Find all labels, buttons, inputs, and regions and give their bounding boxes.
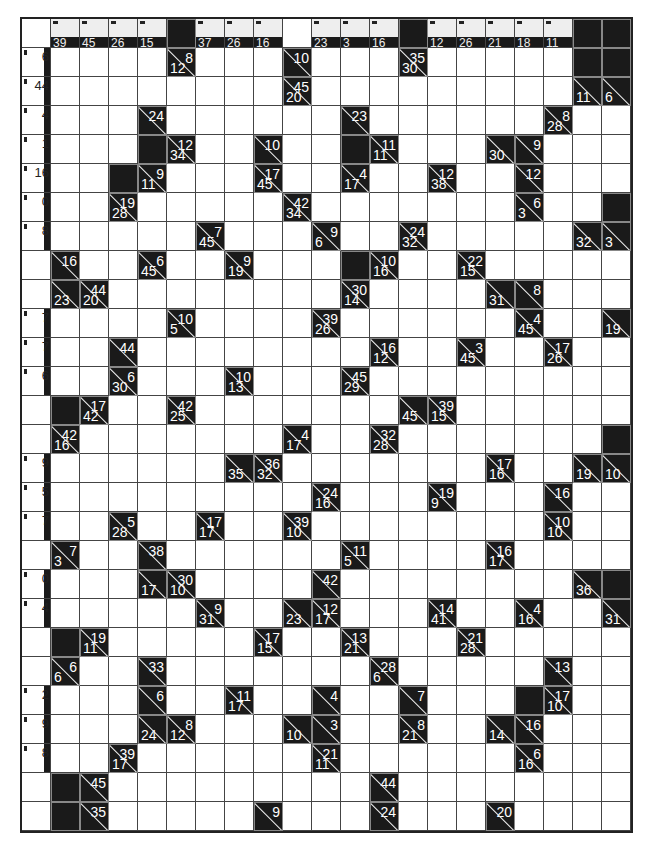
entry-cell[interactable]: [109, 454, 138, 483]
entry-cell[interactable]: [602, 802, 631, 831]
entry-cell[interactable]: [51, 686, 80, 715]
entry-cell[interactable]: [399, 251, 428, 280]
entry-cell[interactable]: [602, 367, 631, 396]
entry-cell[interactable]: [573, 135, 602, 164]
entry-cell[interactable]: [341, 599, 370, 628]
entry-cell[interactable]: [196, 483, 225, 512]
entry-cell[interactable]: [457, 541, 486, 570]
entry-cell[interactable]: [515, 77, 544, 106]
entry-cell[interactable]: [515, 222, 544, 251]
entry-cell[interactable]: [428, 512, 457, 541]
entry-cell[interactable]: [544, 773, 573, 802]
entry-cell[interactable]: [602, 338, 631, 367]
entry-cell[interactable]: [312, 773, 341, 802]
entry-cell[interactable]: [602, 135, 631, 164]
entry-cell[interactable]: [254, 338, 283, 367]
entry-cell[interactable]: [167, 280, 196, 309]
entry-cell[interactable]: [80, 251, 109, 280]
entry-cell[interactable]: [399, 454, 428, 483]
entry-cell[interactable]: [399, 599, 428, 628]
entry-cell[interactable]: [428, 280, 457, 309]
entry-cell[interactable]: [486, 512, 515, 541]
entry-cell[interactable]: [602, 512, 631, 541]
entry-cell[interactable]: [80, 541, 109, 570]
entry-cell[interactable]: [225, 570, 254, 599]
entry-cell[interactable]: [428, 802, 457, 831]
entry-cell[interactable]: [167, 454, 196, 483]
entry-cell[interactable]: [225, 628, 254, 657]
entry-cell[interactable]: [486, 106, 515, 135]
entry-cell[interactable]: [457, 454, 486, 483]
entry-cell[interactable]: [370, 396, 399, 425]
entry-cell[interactable]: [283, 309, 312, 338]
entry-cell[interactable]: [196, 425, 225, 454]
entry-cell[interactable]: [167, 483, 196, 512]
entry-cell[interactable]: [80, 164, 109, 193]
entry-cell[interactable]: [457, 106, 486, 135]
entry-cell[interactable]: [399, 338, 428, 367]
entry-cell[interactable]: [602, 280, 631, 309]
entry-cell[interactable]: [602, 106, 631, 135]
entry-cell[interactable]: [225, 193, 254, 222]
entry-cell[interactable]: [573, 483, 602, 512]
entry-cell[interactable]: [486, 396, 515, 425]
entry-cell[interactable]: [138, 309, 167, 338]
entry-cell[interactable]: [428, 686, 457, 715]
entry-cell[interactable]: [167, 599, 196, 628]
entry-cell[interactable]: [544, 77, 573, 106]
entry-cell[interactable]: [196, 802, 225, 831]
entry-cell[interactable]: [457, 193, 486, 222]
entry-cell[interactable]: [196, 367, 225, 396]
entry-cell[interactable]: [428, 367, 457, 396]
entry-cell[interactable]: [399, 744, 428, 773]
entry-cell[interactable]: [486, 164, 515, 193]
entry-cell[interactable]: [167, 164, 196, 193]
entry-cell[interactable]: [341, 338, 370, 367]
entry-cell[interactable]: [515, 367, 544, 396]
entry-cell[interactable]: [196, 164, 225, 193]
entry-cell[interactable]: [544, 251, 573, 280]
entry-cell[interactable]: [428, 77, 457, 106]
entry-cell[interactable]: [457, 773, 486, 802]
entry-cell[interactable]: [138, 280, 167, 309]
entry-cell[interactable]: [283, 773, 312, 802]
entry-cell[interactable]: [254, 657, 283, 686]
entry-cell[interactable]: [109, 541, 138, 570]
entry-cell[interactable]: [138, 193, 167, 222]
entry-cell[interactable]: [196, 541, 225, 570]
entry-cell[interactable]: [428, 657, 457, 686]
entry-cell[interactable]: [51, 164, 80, 193]
entry-cell[interactable]: [51, 715, 80, 744]
entry-cell[interactable]: [312, 193, 341, 222]
entry-cell[interactable]: [341, 773, 370, 802]
entry-cell[interactable]: [254, 396, 283, 425]
entry-cell[interactable]: [428, 251, 457, 280]
entry-cell[interactable]: [167, 106, 196, 135]
entry-cell[interactable]: [225, 309, 254, 338]
entry-cell[interactable]: [283, 483, 312, 512]
entry-cell[interactable]: [167, 512, 196, 541]
entry-cell[interactable]: [51, 570, 80, 599]
entry-cell[interactable]: [51, 309, 80, 338]
entry-cell[interactable]: [573, 628, 602, 657]
entry-cell[interactable]: [254, 48, 283, 77]
entry-cell[interactable]: [254, 222, 283, 251]
entry-cell[interactable]: [399, 570, 428, 599]
entry-cell[interactable]: [573, 338, 602, 367]
entry-cell[interactable]: [457, 483, 486, 512]
entry-cell[interactable]: [457, 599, 486, 628]
entry-cell[interactable]: [254, 570, 283, 599]
entry-cell[interactable]: [109, 570, 138, 599]
entry-cell[interactable]: [196, 396, 225, 425]
entry-cell[interactable]: [283, 570, 312, 599]
entry-cell[interactable]: [573, 251, 602, 280]
entry-cell[interactable]: [399, 773, 428, 802]
entry-cell[interactable]: [399, 193, 428, 222]
entry-cell[interactable]: [167, 628, 196, 657]
entry-cell[interactable]: [515, 396, 544, 425]
entry-cell[interactable]: [80, 599, 109, 628]
entry-cell[interactable]: [283, 135, 312, 164]
entry-cell[interactable]: [341, 309, 370, 338]
entry-cell[interactable]: [167, 77, 196, 106]
entry-cell[interactable]: [283, 541, 312, 570]
